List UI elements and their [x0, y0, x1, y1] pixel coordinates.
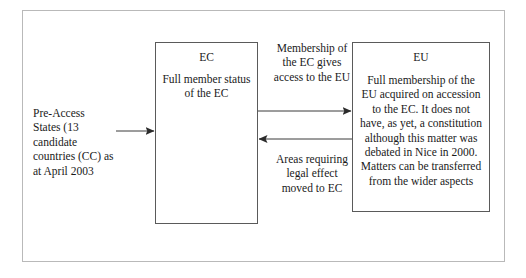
- edge-label-eu-to-ec: Areas requiring legal effect moved to EC: [272, 152, 352, 195]
- node-eu-body: Full membership of the EU acquired on ac…: [353, 73, 489, 188]
- node-pre-access-states: Pre-Access States (13 candidate countrie…: [33, 106, 115, 178]
- node-ec-title: EC: [156, 50, 257, 64]
- node-box-ec: EC Full member status of the EC: [155, 42, 258, 224]
- node-eu-title: EU: [353, 50, 489, 64]
- diagram-canvas: Pre-Access States (13 candidate countrie…: [0, 0, 526, 278]
- node-ec-body: Full member status of the EC: [156, 72, 257, 100]
- edge-label-ec-to-eu: Membership of the EC gives access to the…: [272, 41, 352, 84]
- node-box-eu: EU Full membership of the EU acquired on…: [352, 42, 490, 212]
